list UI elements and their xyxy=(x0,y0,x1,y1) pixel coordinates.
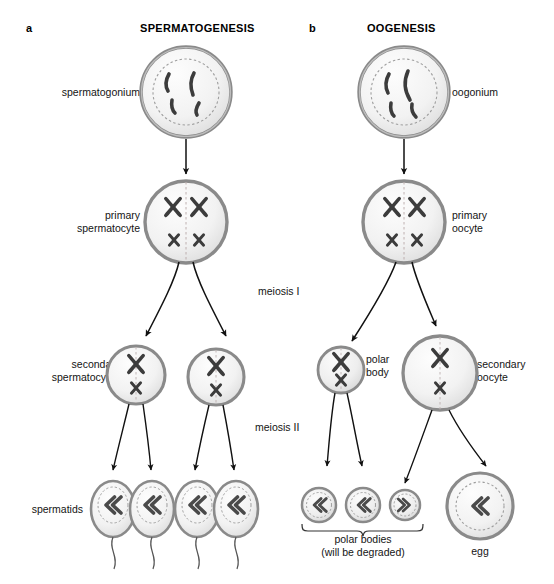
arrow-primary-oocyte-to-polar-body xyxy=(352,262,396,341)
cell-spermatogonium xyxy=(141,47,231,137)
cell-polar-body xyxy=(318,347,364,393)
polar-body-3 xyxy=(390,490,420,520)
arrow-primary-oocyte-to-secondary xyxy=(412,262,436,326)
cell-primary-spermatocyte xyxy=(145,181,227,263)
cell-oogonium xyxy=(359,47,449,137)
arrow-sec1-to-spermatid1 xyxy=(113,404,129,470)
arrow-sec1-to-spermatid2 xyxy=(143,404,151,470)
polar-body-1 xyxy=(302,488,336,522)
cell-secondary-spermatocyte-right xyxy=(188,349,244,405)
figure-canvas: a SPERMATOGENESIS b OOGENESIS spermatogo… xyxy=(0,0,554,584)
arrow-secondary-oocyte-to-pb3 xyxy=(405,410,432,483)
arrow-primary-to-secondary-right xyxy=(193,262,226,336)
polar-body-2 xyxy=(346,488,380,522)
arrow-polar-body-to-pb2 xyxy=(347,393,362,466)
arrow-polar-body-to-pb1 xyxy=(327,393,335,466)
arrow-primary-to-secondary-left xyxy=(146,262,179,336)
arrow-sec2-to-spermatid4 xyxy=(223,405,234,470)
spermatid-3 xyxy=(175,481,219,569)
cell-egg xyxy=(447,473,513,539)
polar-bodies-brace xyxy=(302,524,423,536)
arrow-sec2-to-spermatid3 xyxy=(195,405,209,470)
diagram-graphics xyxy=(0,0,554,584)
spermatid-4 xyxy=(214,481,258,569)
cell-secondary-spermatocyte-left xyxy=(107,346,165,404)
cell-secondary-oocyte xyxy=(403,336,477,410)
flagellum xyxy=(112,537,116,569)
spermatid-1 xyxy=(91,481,135,569)
arrow-secondary-oocyte-to-egg xyxy=(449,410,486,466)
cell-primary-oocyte xyxy=(363,181,445,263)
spermatid-2 xyxy=(130,481,174,569)
